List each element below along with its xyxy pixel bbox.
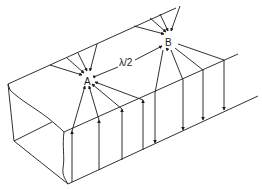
current-line — [178, 44, 224, 60]
label-point-b: B — [165, 37, 172, 48]
label-half-wavelength: λ/2 — [119, 57, 133, 68]
lambda-dimension-line — [96, 67, 118, 76]
current-line — [160, 14, 168, 31]
waveguide-diagram: A B λ/2 — [0, 0, 262, 189]
field-arrows-down — [155, 60, 224, 143]
cut-curve-top — [10, 90, 64, 132]
cut-curve-front — [63, 132, 68, 184]
inner-bottom-back-edge — [14, 122, 52, 141]
current-line — [134, 26, 164, 34]
bottom-left-edge — [14, 141, 68, 184]
current-line — [150, 18, 166, 32]
lambda-dimension-line — [135, 46, 162, 60]
surface-current-b — [134, 6, 224, 93]
current-line — [72, 86, 85, 131]
current-line — [171, 50, 183, 80]
current-line — [92, 84, 122, 109]
current-line — [89, 86, 99, 120]
current-line — [90, 44, 97, 71]
bottom-front-edge — [68, 96, 258, 184]
current-line — [95, 82, 143, 100]
current-line — [166, 48, 168, 50]
current-line — [155, 50, 163, 93]
top-front-edge — [64, 54, 238, 132]
label-point-a: A — [84, 76, 91, 87]
top-back-edge — [8, 8, 176, 84]
